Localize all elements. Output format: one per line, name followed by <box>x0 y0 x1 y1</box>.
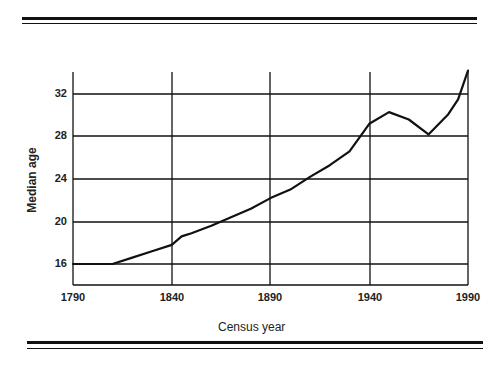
x-tick-label: 1840 <box>152 291 192 303</box>
x-tick-label: 1890 <box>250 291 290 303</box>
x-tick-label: 1940 <box>350 291 390 303</box>
x-tick-label: 1990 <box>448 291 488 303</box>
y-tick-label: 20 <box>37 215 67 227</box>
grid <box>73 72 468 285</box>
x-tick-label: 1790 <box>53 291 93 303</box>
line-chart <box>0 0 501 365</box>
y-tick-label: 24 <box>37 172 67 184</box>
y-tick-label: 32 <box>37 87 67 99</box>
y-tick-label: 28 <box>37 129 67 141</box>
y-axis-label: Median age <box>25 147 39 212</box>
x-axis-label: Census year <box>218 320 285 334</box>
y-tick-label: 16 <box>37 257 67 269</box>
